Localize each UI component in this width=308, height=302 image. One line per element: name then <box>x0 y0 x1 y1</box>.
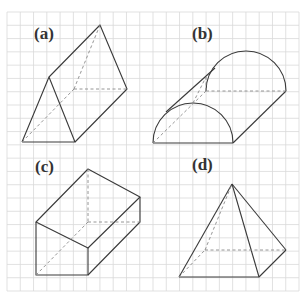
label-a: (a) <box>34 24 54 43</box>
label-d: (d) <box>192 155 213 174</box>
grid-paper <box>7 12 299 291</box>
label-c: (c) <box>35 157 54 176</box>
label-b: (b) <box>192 24 213 43</box>
geometry-figure: (a) (b) (c) (d) <box>0 0 308 302</box>
